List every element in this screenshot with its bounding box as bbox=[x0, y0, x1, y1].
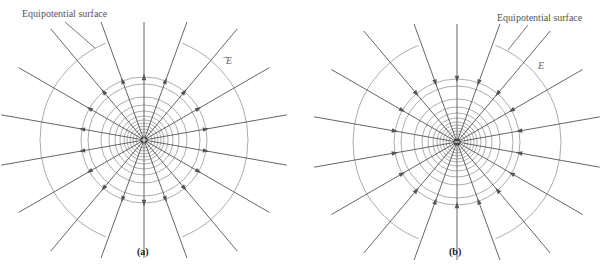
equipotential-label-b: Equipotential surface bbox=[497, 12, 582, 23]
caption-a: (a) bbox=[137, 246, 149, 257]
field-label-b: E bbox=[538, 60, 544, 71]
field-label-a: ⃗E bbox=[226, 55, 232, 66]
caption-b: (b) bbox=[449, 246, 461, 257]
equipotential-label-a: Equipotential surface bbox=[22, 8, 107, 19]
field-diagram bbox=[0, 0, 605, 265]
